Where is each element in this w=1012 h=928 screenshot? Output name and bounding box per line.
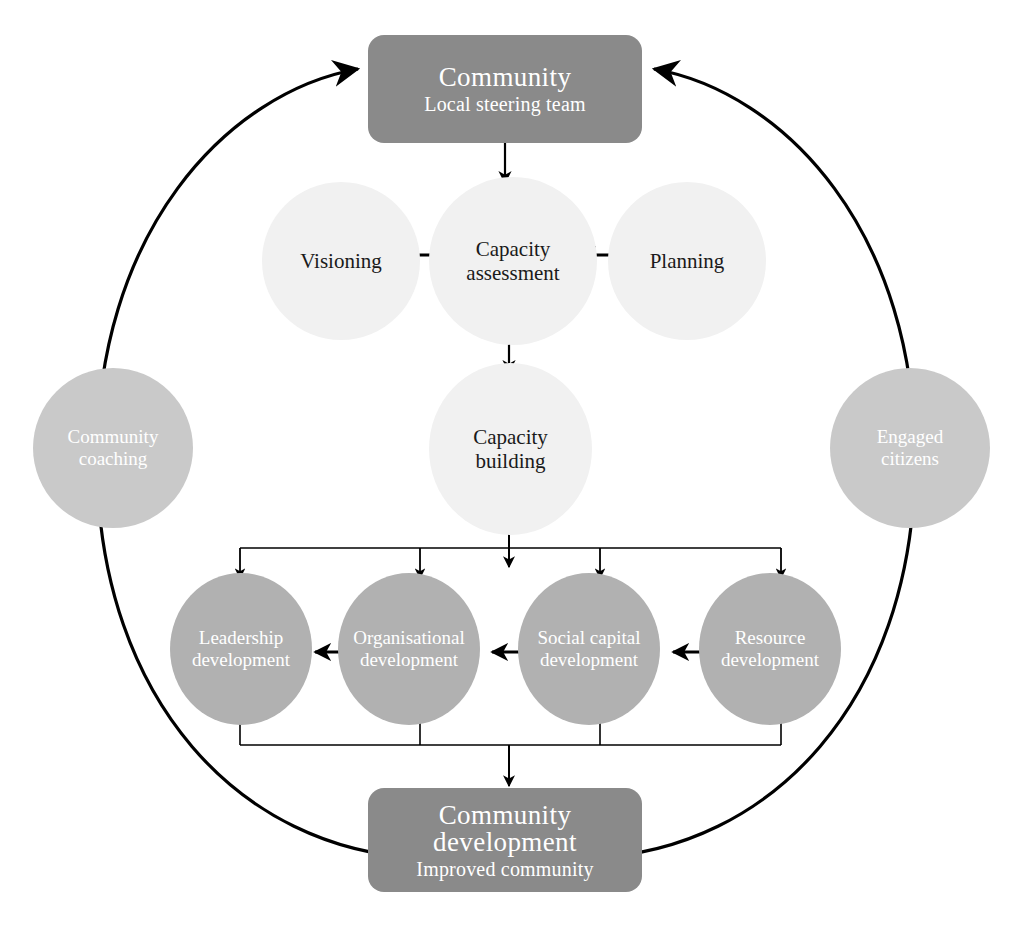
circle-engaged-citizens-label-line1: Engaged [877,426,943,448]
circle-community-coaching: Community coaching [33,368,193,528]
circle-planning-label: Planning [650,249,725,273]
circle-visioning-label: Visioning [300,249,382,273]
circle-leadership-development: Leadership development [170,573,312,725]
circle-capacity-building-label-line1: Capacity [473,425,548,449]
circle-engaged-citizens: Engaged citizens [830,368,990,528]
circle-visioning: Visioning [262,182,420,340]
diagram-canvas: Community Local steering team Community … [0,0,1012,928]
box-community-title: Community [439,62,572,92]
circle-capacity-assessment-label-line1: Capacity [476,237,551,261]
box-community-development-subtitle: Improved community [416,858,593,880]
box-community-development-title-line2: development [433,827,577,857]
circle-community-coaching-label-line1: Community [68,426,159,448]
box-community-subtitle: Local steering team [424,93,586,115]
circle-capacity-building: Capacity building [429,363,592,535]
circle-capacity-assessment: Capacity assessment [429,177,597,345]
circle-leadership-development-label-line2: development [192,649,290,671]
circle-social-capital-development: Social capital development [518,573,660,725]
circle-capacity-assessment-label-line2: assessment [466,261,559,285]
circle-resource-development-label-line1: Resource [735,627,806,649]
circle-engaged-citizens-label-line2: citizens [881,448,939,470]
circle-organisational-development-label-line1: Organisational [353,627,465,649]
circle-organisational-development: Organisational development [338,573,480,725]
circle-leadership-development-label-line1: Leadership [199,627,283,649]
circle-capacity-building-label-line2: building [475,449,545,473]
circle-resource-development-label-line2: development [721,649,819,671]
box-community-development: Community development Improved community [368,788,642,892]
fan-out-bracket [240,534,781,578]
box-community: Community Local steering team [368,35,642,143]
circle-resource-development: Resource development [699,573,841,725]
circle-social-capital-development-label-line2: development [540,649,638,671]
circle-planning: Planning [608,182,766,340]
fan-in-bracket [240,718,781,786]
circle-social-capital-development-label-line1: Social capital [538,627,641,649]
circle-community-coaching-label-line2: coaching [79,448,148,470]
box-community-development-title-line1: Community [439,800,572,830]
circle-organisational-development-label-line2: development [360,649,458,671]
